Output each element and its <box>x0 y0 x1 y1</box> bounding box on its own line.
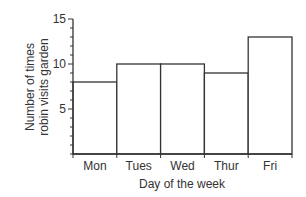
y-tick-label-10: 10 <box>53 57 67 71</box>
y-axis-title-line-1: Number of times <box>23 43 37 131</box>
x-tick-label-mon: Mon <box>83 159 106 173</box>
y-axis-title: Number of times robin visits garden <box>23 38 51 135</box>
bar-mon <box>73 82 117 154</box>
bar-wed <box>161 64 205 154</box>
bar-tues <box>117 64 161 154</box>
y-axis: 51015 <box>53 12 73 154</box>
x-axis-title: Day of the week <box>139 177 226 191</box>
x-tick-label-wed: Wed <box>170 159 194 173</box>
y-tick-label-15: 15 <box>53 12 67 26</box>
x-axis: MonTuesWedThurFri <box>73 154 292 173</box>
x-tick-label-thur: Thur <box>214 159 239 173</box>
bars-group <box>73 37 292 154</box>
y-axis-title-line-2: robin visits garden <box>37 38 51 135</box>
y-tick-label-5: 5 <box>59 102 66 116</box>
x-tick-label-tues: Tues <box>126 159 152 173</box>
bar-thur <box>204 73 248 154</box>
bar-fri <box>248 37 292 154</box>
bar-chart: 51015 MonTuesWedThurFri Day of the week … <box>0 0 306 197</box>
x-tick-label-fri: Fri <box>263 159 277 173</box>
